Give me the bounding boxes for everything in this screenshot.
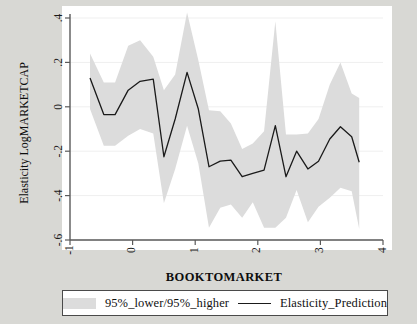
legend-label-line: Elasticity_Prediction <box>280 296 387 311</box>
x-axis-ticks: -101234 <box>63 240 388 255</box>
chart-screenshot: -101234 .4.20-.2-.4-.6 Elasticity LogMAR… <box>0 0 417 324</box>
legend-band-swatch <box>63 298 96 309</box>
chart-legend: 95%_lower/95%_higher Elasticity_Predicti… <box>62 290 388 316</box>
x-tick-label: 2 <box>250 247 262 253</box>
x-tick-label: -1 <box>63 245 75 255</box>
y-tick-label: .2 <box>52 58 64 67</box>
y-tick-label: -.6 <box>52 234 64 247</box>
x-tick-label: 4 <box>376 247 388 253</box>
confidence-band-95 <box>90 12 359 228</box>
x-tick-label: 3 <box>313 247 325 253</box>
y-axis-title: Elasticity LogMARKETCAP <box>17 62 31 204</box>
y-tick-label: -.4 <box>52 189 64 202</box>
y-tick-label: .4 <box>52 13 64 22</box>
legend-line-swatch <box>238 303 271 304</box>
y-axis-ticks: .4.20-.2-.4-.6 <box>52 13 70 246</box>
x-tick-label: 0 <box>125 247 137 253</box>
x-axis-title: BOOKTOMARKET <box>166 270 283 284</box>
y-tick-label: -.2 <box>52 145 64 158</box>
x-tick-label: 1 <box>188 247 200 253</box>
elasticity-chart: -101234 .4.20-.2-.4-.6 Elasticity LogMAR… <box>0 0 417 324</box>
y-tick-label: 0 <box>52 104 64 110</box>
legend-label-band: 95%_lower/95%_higher <box>105 296 229 311</box>
